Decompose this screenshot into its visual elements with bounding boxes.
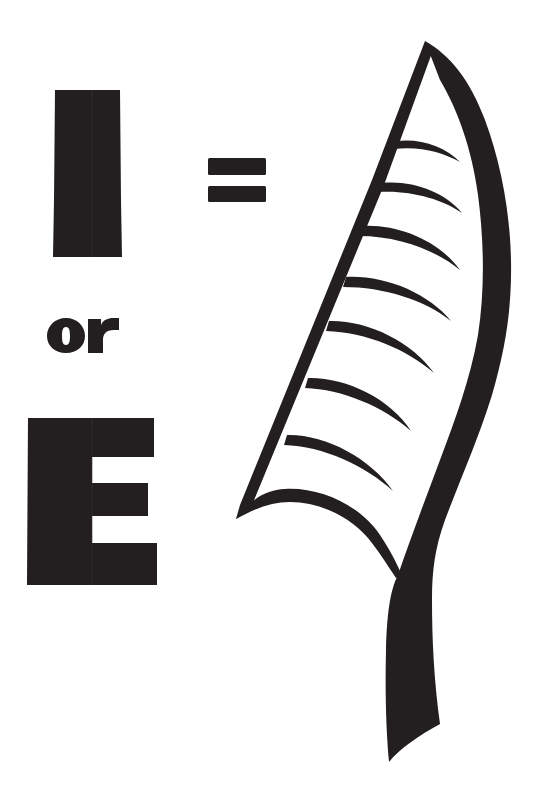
figure-svg — [0, 0, 541, 806]
leaf-right-edge — [386, 41, 511, 762]
leaf-vein-6 — [305, 378, 411, 431]
leaf-vein-1 — [394, 140, 460, 162]
leaf-vein-4 — [343, 277, 451, 321]
letter-i — [53, 90, 122, 257]
leaf-vein-2 — [379, 183, 462, 213]
leaf-drawing — [236, 41, 511, 762]
letter-e — [27, 418, 157, 585]
connector-word-or — [47, 318, 119, 353]
equals-sign — [208, 158, 266, 202]
leaf-vein-5 — [326, 321, 434, 373]
leaf-bottom-vein — [236, 489, 402, 578]
leaf-vein-7 — [284, 435, 393, 491]
figure-canvas — [0, 0, 541, 806]
leaf-vein-3 — [359, 226, 460, 270]
